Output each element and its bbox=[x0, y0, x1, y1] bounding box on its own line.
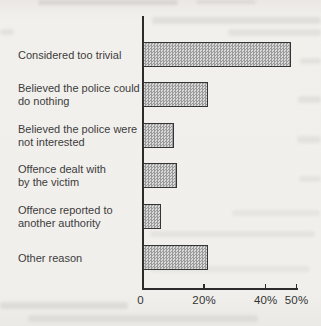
x-tick-label: 50% bbox=[285, 294, 309, 306]
bleed-artifact bbox=[0, 302, 128, 309]
bar-1 bbox=[143, 82, 208, 107]
bleed-artifact bbox=[150, 231, 315, 237]
bleed-artifact bbox=[300, 58, 321, 64]
category-label: Other reason bbox=[18, 251, 146, 264]
bleed-artifact bbox=[38, 0, 178, 5]
x-tick-mark bbox=[296, 284, 298, 289]
x-tick-label: 0 bbox=[137, 294, 144, 306]
category-label: Offence reported to another authority bbox=[18, 204, 146, 230]
x-tick-mark bbox=[203, 284, 205, 289]
x-axis-line bbox=[142, 288, 298, 290]
bar-4 bbox=[143, 204, 161, 229]
bleed-artifact bbox=[228, 29, 321, 36]
x-tick-label: 40% bbox=[254, 294, 278, 306]
category-label: Believed the police were not interested bbox=[18, 123, 146, 149]
x-tick-label: 20% bbox=[192, 294, 216, 306]
bleed-artifact bbox=[299, 176, 321, 182]
bar-3 bbox=[143, 163, 177, 188]
scanned-book-page: 020%40%50% Considered too trivialBelieve… bbox=[0, 0, 321, 326]
category-label: Offence dealt with by the victim bbox=[18, 163, 146, 189]
bleed-artifact bbox=[0, 29, 14, 35]
category-label: Considered too trivial bbox=[18, 48, 146, 61]
bar-5 bbox=[143, 245, 208, 270]
bleed-artifact bbox=[232, 210, 320, 216]
bleed-artifact bbox=[152, 17, 321, 24]
bleed-artifact bbox=[297, 136, 321, 143]
bleed-artifact bbox=[298, 96, 321, 103]
bar-2 bbox=[143, 123, 174, 148]
bleed-artifact bbox=[196, 0, 256, 4]
category-label: Believed the police could do nothing bbox=[18, 82, 146, 108]
bleed-artifact bbox=[28, 315, 258, 322]
x-tick-mark bbox=[265, 284, 267, 289]
bar-0 bbox=[143, 42, 291, 67]
